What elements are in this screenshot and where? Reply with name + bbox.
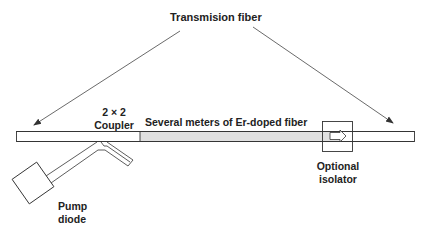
coupler-label-line1: 2 × 2 xyxy=(86,106,142,119)
pump-label-line2: diode xyxy=(58,213,87,226)
edfa-diagram xyxy=(0,0,429,227)
doped-fiber-label: Several meters of Er-doped fiber xyxy=(145,116,307,129)
isolator-label-line1: Optional xyxy=(313,160,363,173)
pump-diode xyxy=(12,162,54,204)
pump-label-line1: Pump xyxy=(58,200,87,213)
isolator-label: Optional isolator xyxy=(313,160,363,185)
coupler-label-line2: Coupler xyxy=(86,119,142,132)
isolator-label-line2: isolator xyxy=(313,173,363,186)
arrow-right xyxy=(253,27,393,123)
pump-diode-label: Pump diode xyxy=(58,200,87,225)
coupler-label: 2 × 2 Coupler xyxy=(86,106,142,131)
title-label: Transmision fiber xyxy=(170,11,262,24)
er-doped-fiber xyxy=(140,132,342,141)
coupler xyxy=(46,142,133,183)
